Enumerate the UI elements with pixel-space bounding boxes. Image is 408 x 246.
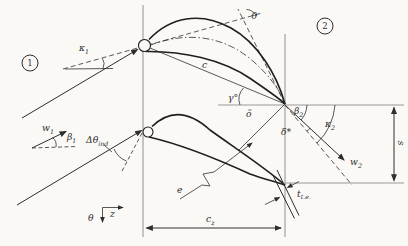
stagger-angle-label: γ° bbox=[228, 92, 238, 103]
pitch-label: s bbox=[396, 141, 407, 146]
cascade-nomenclature-figure: 1 2 θ κ1 w1 β1 Δθind c γ° õ e β2 κ2 δ* w… bbox=[0, 0, 408, 246]
throat-label: õ bbox=[246, 108, 252, 119]
blade1-leading-edge-circle bbox=[139, 40, 151, 52]
chord-label: c bbox=[202, 59, 207, 70]
suction-radius-label: e bbox=[177, 184, 183, 195]
deviation-angle-label: δ* bbox=[281, 126, 292, 137]
station-2-number: 2 bbox=[322, 21, 327, 31]
theta-axis-label: θ bbox=[88, 212, 94, 223]
blade2-leading-edge-circle bbox=[143, 127, 153, 137]
z-axis-label: z bbox=[109, 208, 115, 219]
camber-angle-label: θ bbox=[252, 10, 258, 21]
paper-background bbox=[0, 0, 408, 246]
station-1-number: 1 bbox=[27, 58, 32, 68]
cascade-diagram: 1 2 θ κ1 w1 β1 Δθind c γ° õ e β2 κ2 δ* w… bbox=[0, 0, 408, 246]
